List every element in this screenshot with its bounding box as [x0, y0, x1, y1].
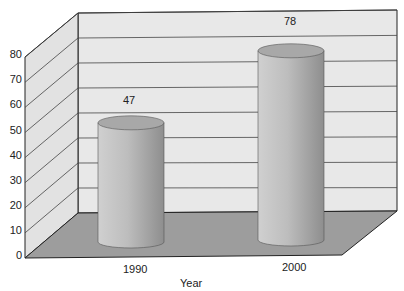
y-tick-label: 70 — [0, 73, 22, 85]
y-tick-label: 80 — [0, 48, 22, 60]
x-axis-label: Year — [180, 277, 202, 289]
floor — [25, 211, 397, 258]
y-tick-label: 40 — [0, 149, 22, 161]
y-tick-label: 60 — [0, 98, 22, 110]
bar-cylinder — [98, 123, 164, 248]
y-tick-label: 10 — [0, 224, 22, 236]
y-tick-label: 20 — [0, 199, 22, 211]
x-tick-label-1990: 1990 — [123, 263, 147, 275]
y-tick-label: 0 — [0, 249, 22, 261]
data-label-2000: 78 — [284, 15, 296, 27]
x-tick-label-2000: 2000 — [282, 261, 306, 273]
chart-canvas — [0, 0, 404, 291]
data-label-1990: 47 — [123, 94, 135, 106]
bar-cylinder — [258, 51, 324, 246]
y-tick-label: 50 — [0, 124, 22, 136]
y-tick-label: 30 — [0, 174, 22, 186]
